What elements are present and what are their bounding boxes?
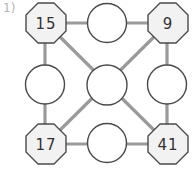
puzzle-graphic: 15 9 17 41 <box>0 0 195 171</box>
corner-value-top-right: 9 <box>163 15 174 33</box>
blank-circle-center[interactable] <box>87 65 127 105</box>
blank-circle-left[interactable] <box>26 65 65 104</box>
blank-circle-right[interactable] <box>148 65 187 104</box>
number-puzzle-diagram: 1) 15 <box>0 0 195 171</box>
corner-value-top-left: 15 <box>35 15 56 33</box>
corner-value-bottom-right: 41 <box>157 136 178 154</box>
problem-number-label: 1) <box>3 1 15 15</box>
corner-value-bottom-left: 17 <box>35 136 56 154</box>
blank-circle-bottom[interactable] <box>88 124 127 163</box>
blank-circle-top[interactable] <box>88 4 127 43</box>
